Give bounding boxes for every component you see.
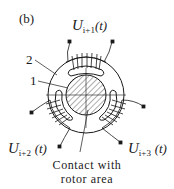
voltage-label-top: Ui+1(t)	[72, 18, 107, 35]
leader-line-2	[35, 60, 57, 75]
winding-top	[66, 40, 114, 70]
leader-line-1	[38, 81, 68, 88]
voltage-label-bottom-right: Ui+3 (t)	[128, 141, 167, 158]
voltage-subscript: i+1	[83, 25, 95, 35]
panel-label: (b)	[19, 12, 34, 25]
voltage-arg: (t)	[35, 141, 47, 156]
stator-label: 2	[26, 53, 33, 66]
rotor-label: 1	[30, 74, 37, 87]
voltage-arg: (t)	[155, 141, 167, 156]
voltage-subscript: i+2	[19, 148, 31, 158]
voltage-arg: (t)	[95, 18, 107, 33]
voltage-symbol: U	[8, 140, 19, 156]
caption-line-1: Contact with	[0, 159, 174, 171]
voltage-label-bottom-left: Ui+2 (t)	[8, 141, 47, 158]
voltage-subscript: i+3	[139, 148, 151, 158]
contact-pointer-line	[80, 110, 88, 152]
voltage-symbol: U	[128, 140, 139, 156]
voltage-symbol: U	[72, 17, 83, 33]
caption-line-2: rotor area	[0, 173, 174, 185]
